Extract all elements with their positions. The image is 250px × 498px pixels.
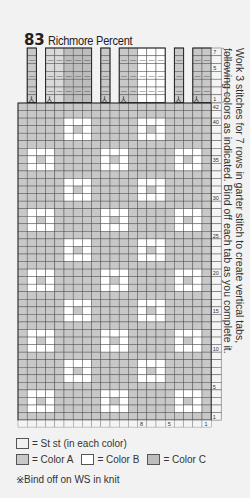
garter-ridge-icon: — [84, 73, 90, 79]
instruction-note: Work 3 stitches for 7 rows in garter sti… [222, 48, 246, 428]
column-label: 1 [205, 421, 208, 427]
row-label: 20 [213, 270, 219, 276]
row-label: 42 [213, 104, 219, 110]
garter-ridge-icon: — [84, 57, 90, 63]
garter-ridge-icon: — [47, 73, 53, 79]
garter-ridge-icon: — [103, 88, 109, 94]
garter-ridge-icon: — [149, 57, 155, 63]
garter-ridge-icon: — [103, 73, 109, 79]
garter-ridge-icon: — [29, 57, 35, 63]
instruction-line-1: Work 3 stitches for 7 rows in garter sti… [234, 48, 246, 354]
garter-ridge-icon: — [149, 88, 155, 94]
legend-note: ※Bind off on WS in knit [16, 474, 119, 485]
garter-ridge-icon: — [195, 88, 201, 94]
legend-st-st: = St st (in each color) [16, 438, 135, 449]
garter-ridge-icon: — [57, 57, 63, 63]
row-label: 30 [213, 195, 219, 201]
garter-ridge-icon: — [75, 73, 81, 79]
garter-ridge-icon: — [66, 57, 72, 63]
garter-ridge-icon: — [158, 57, 164, 63]
garter-ridge-icon: — [139, 88, 145, 94]
swatch-st-st-icon [16, 438, 29, 449]
garter-ridge-icon: — [176, 73, 182, 79]
garter-ridge-icon: — [121, 88, 127, 94]
garter-ridge-icon: — [176, 88, 182, 94]
row-label: 5 [213, 384, 216, 390]
garter-ridge-icon: — [47, 88, 53, 94]
garter-ridge-icon: — [139, 57, 145, 63]
garter-ridge-icon: — [158, 88, 164, 94]
garter-ridge-icon: — [84, 88, 90, 94]
garter-ridge-icon: — [204, 57, 210, 63]
row-label: 1 [213, 414, 216, 420]
garter-ridge-icon: — [139, 73, 145, 79]
garter-ridge-icon: — [103, 57, 109, 63]
garter-ridge-icon: — [149, 73, 155, 79]
legend-colors: = Color A = Color B = Color C [16, 454, 214, 465]
row-label: 25 [213, 233, 219, 239]
garter-ridge-icon: — [130, 88, 136, 94]
garter-ridge-icon: — [66, 88, 72, 94]
column-label: 8 [140, 421, 143, 427]
garter-ridge-icon: — [57, 88, 63, 94]
row-label: 40 [213, 119, 219, 125]
garter-ridge-icon: — [121, 73, 127, 79]
garter-ridge-icon: — [204, 73, 210, 79]
garter-ridge-icon: — [29, 88, 35, 94]
knitting-chart: 158151015202530354042———⅄———⅄———————————… [0, 0, 250, 440]
row-label: 10 [213, 346, 219, 352]
garter-ridge-icon: — [47, 57, 53, 63]
garter-ridge-icon: — [29, 73, 35, 79]
garter-ridge-icon: — [75, 88, 81, 94]
row-label: 35 [213, 157, 219, 163]
swatch-color-b-icon [81, 454, 94, 465]
garter-ridge-icon: — [57, 73, 63, 79]
tab-row-label: 1 [213, 96, 216, 102]
garter-ridge-icon: — [176, 57, 182, 63]
garter-ridge-icon: — [195, 57, 201, 63]
garter-ridge-icon: — [204, 88, 210, 94]
garter-ridge-icon: — [130, 73, 136, 79]
garter-ridge-icon: — [66, 73, 72, 79]
garter-ridge-icon: — [130, 57, 136, 63]
tab-row-label: 5 [213, 65, 216, 71]
garter-ridge-icon: — [75, 57, 81, 63]
swatch-color-c-icon [147, 454, 160, 465]
swatch-color-a-icon [16, 454, 29, 465]
garter-ridge-icon: — [121, 57, 127, 63]
instruction-line-2: following colors as indicated. Bind off … [222, 48, 234, 354]
tab-row-label: 7 [213, 49, 216, 55]
instruction-text: Work 3 stitches for 7 rows in garter sti… [222, 48, 246, 354]
row-label: 15 [213, 308, 219, 314]
column-label: 5 [168, 421, 171, 427]
garter-ridge-icon: — [195, 73, 201, 79]
garter-ridge-icon: — [158, 73, 164, 79]
